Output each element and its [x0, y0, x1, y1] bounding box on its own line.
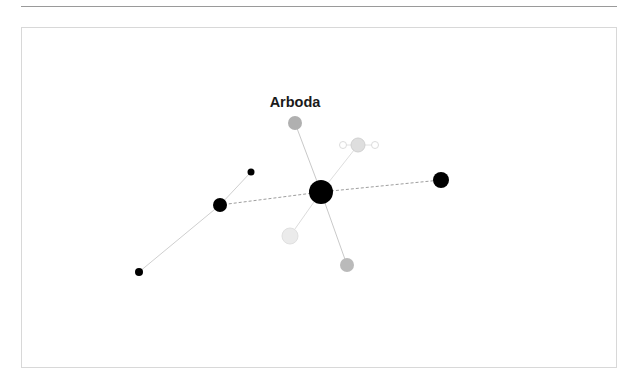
graph-edge — [220, 192, 321, 205]
graph-edge — [139, 205, 220, 272]
graph-node-verylight-lower[interactable] — [282, 228, 298, 244]
graph-node-black-right[interactable] — [433, 172, 449, 188]
network-graph: Arboda — [0, 0, 638, 386]
graph-node-hollow-right[interactable] — [372, 142, 379, 149]
graph-edge — [321, 180, 441, 192]
graph-node-lightgray-cluster-hub[interactable] — [351, 138, 365, 152]
graph-node-black-mid-left[interactable] — [213, 198, 227, 212]
graph-node-gray-bottom[interactable] — [340, 258, 354, 272]
graph-node-gray-top[interactable] — [288, 116, 302, 130]
graph-node-black-small-upper-left[interactable] — [248, 169, 255, 176]
graph-node-black-small-lower-left[interactable] — [135, 268, 143, 276]
graph-node-label-arboda: Arboda — [270, 94, 322, 110]
node-layer — [135, 116, 449, 276]
graph-node-hub[interactable] — [309, 180, 333, 204]
edge-layer — [139, 123, 441, 272]
label-layer: Arboda — [270, 94, 322, 110]
graph-node-hollow-left[interactable] — [340, 142, 347, 149]
